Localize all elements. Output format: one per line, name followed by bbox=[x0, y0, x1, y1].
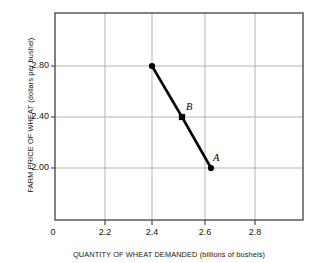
data-point-b bbox=[179, 114, 185, 120]
x-axis-ticks bbox=[105, 220, 255, 225]
x-axis-title-text: QUANTITY OF WHEAT DEMANDED (billions of … bbox=[73, 250, 265, 259]
chart-plot-area bbox=[0, 0, 318, 263]
y-axis-title: FARM PRICE OF WHEAT (dollars per bushel) bbox=[23, 25, 37, 205]
x-tick-label-24: 2.4 bbox=[132, 227, 172, 237]
x-tick-label-0: 0 bbox=[33, 227, 73, 237]
x-tick-label-26: 2.6 bbox=[185, 227, 225, 237]
point-label-b: B bbox=[186, 101, 192, 112]
data-point-a bbox=[208, 165, 214, 171]
y-axis-title-text: FARM PRICE OF WHEAT (dollars per bushel) bbox=[26, 38, 35, 193]
x-tick-label-22: 2.2 bbox=[85, 227, 125, 237]
point-label-a: A bbox=[213, 152, 219, 163]
data-point-top bbox=[149, 63, 155, 69]
demand-curve-chart: 2.80 2.40 2.00 0 2.2 2.4 2.6 2.8 B A FAR… bbox=[0, 0, 318, 263]
x-axis-title: QUANTITY OF WHEAT DEMANDED (billions of … bbox=[30, 243, 308, 261]
x-tick-label-28: 2.8 bbox=[235, 227, 275, 237]
